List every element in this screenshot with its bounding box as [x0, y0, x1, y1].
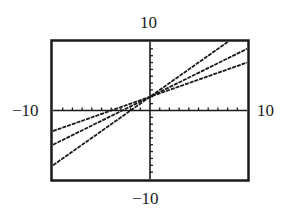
- graph-screen: [0, 0, 284, 213]
